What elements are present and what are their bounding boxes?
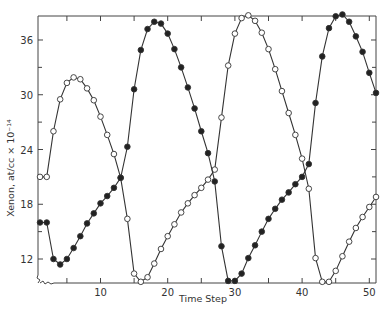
x-tick-label: 10 xyxy=(94,287,107,298)
data-point xyxy=(306,186,312,192)
data-point xyxy=(360,214,366,220)
axis-break-icon xyxy=(37,275,54,284)
data-point xyxy=(252,18,258,24)
data-point xyxy=(239,15,245,21)
data-point xyxy=(172,222,178,228)
data-point xyxy=(360,49,366,55)
data-point xyxy=(246,13,252,19)
data-point xyxy=(192,192,198,198)
data-point xyxy=(145,26,151,32)
data-point xyxy=(232,31,238,37)
x-tick-label: 20 xyxy=(161,287,174,298)
data-point xyxy=(219,115,225,121)
data-point xyxy=(104,132,110,138)
data-point xyxy=(178,65,184,71)
data-point xyxy=(299,174,305,180)
data-point xyxy=(138,47,144,53)
data-point xyxy=(353,225,359,231)
data-point xyxy=(225,278,231,284)
data-point xyxy=(151,19,157,25)
data-point xyxy=(333,13,339,19)
data-point xyxy=(44,220,50,226)
data-point xyxy=(51,256,57,262)
data-point xyxy=(340,253,346,259)
y-tick-label: 12 xyxy=(20,254,33,265)
data-point xyxy=(326,279,332,285)
series-line xyxy=(40,15,376,281)
data-point xyxy=(78,76,84,82)
data-point xyxy=(64,80,70,86)
data-point xyxy=(131,86,137,92)
data-point xyxy=(367,204,373,210)
data-point xyxy=(165,31,171,37)
data-point xyxy=(259,30,265,36)
y-tick-label: 30 xyxy=(20,90,33,101)
data-point xyxy=(353,34,359,40)
data-point xyxy=(71,245,77,251)
data-point xyxy=(319,279,325,285)
data-point xyxy=(373,194,379,200)
data-point xyxy=(57,262,63,268)
data-point xyxy=(91,97,97,103)
data-point xyxy=(225,63,231,69)
data-point xyxy=(319,54,325,60)
x-tick-label: 40 xyxy=(296,287,309,298)
data-point xyxy=(84,221,90,227)
data-point xyxy=(57,97,63,103)
data-point xyxy=(84,86,90,92)
data-point xyxy=(44,174,50,180)
y-tick-label: 24 xyxy=(20,145,33,156)
y-axis-title: Xenon, at/cc × 10⁻¹⁴ xyxy=(5,119,16,217)
data-point xyxy=(37,220,43,226)
data-point xyxy=(199,185,205,191)
data-point xyxy=(104,193,110,199)
data-point xyxy=(185,85,191,91)
data-point xyxy=(373,90,379,96)
data-point xyxy=(219,243,225,249)
xenon-oscillation-chart: 10203040501218243036 Time Step Xenon, at… xyxy=(0,0,388,318)
data-point xyxy=(286,110,292,116)
data-point xyxy=(71,75,77,81)
data-point xyxy=(259,229,265,235)
x-tick-label: 50 xyxy=(363,287,376,298)
data-point xyxy=(185,201,191,207)
data-point xyxy=(125,216,131,222)
data-point xyxy=(266,46,272,52)
x-axis-title: Time Step xyxy=(178,293,227,304)
data-point xyxy=(172,46,178,52)
data-point xyxy=(98,114,104,120)
data-point xyxy=(125,144,131,150)
data-point xyxy=(212,179,218,185)
data-point xyxy=(346,239,352,245)
data-point xyxy=(299,156,305,162)
data-point xyxy=(111,185,117,191)
series-open xyxy=(37,13,379,285)
series-filled xyxy=(37,12,379,284)
y-tick-label: 18 xyxy=(20,199,33,210)
data-point xyxy=(246,255,252,261)
data-point xyxy=(199,128,205,134)
data-point xyxy=(51,128,57,134)
data-point xyxy=(37,174,43,180)
data-point xyxy=(239,271,245,277)
data-point xyxy=(272,66,278,72)
data-point xyxy=(252,243,258,249)
data-point xyxy=(131,271,137,277)
data-point xyxy=(205,150,211,156)
data-point xyxy=(158,246,164,252)
data-point xyxy=(326,25,332,31)
data-point xyxy=(346,19,352,25)
data-point xyxy=(178,210,184,216)
data-point xyxy=(158,21,164,27)
y-tick-label: 36 xyxy=(20,35,33,46)
data-point xyxy=(111,151,117,157)
data-point xyxy=(98,201,104,207)
data-point xyxy=(313,255,319,261)
data-point xyxy=(151,261,157,267)
data-point xyxy=(266,216,272,222)
data-point xyxy=(205,177,211,183)
data-point xyxy=(138,279,144,285)
figure-caption xyxy=(40,312,360,318)
x-tick-label: 30 xyxy=(229,287,242,298)
data-point xyxy=(279,88,285,94)
